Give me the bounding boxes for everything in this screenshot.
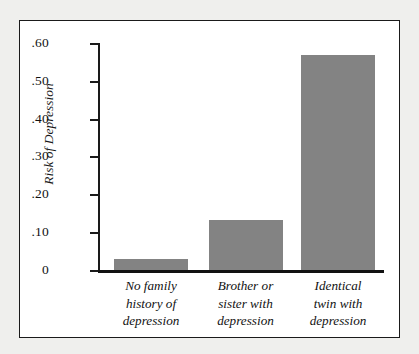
x-axis-category-line: depression <box>99 312 203 330</box>
x-axis-category-line: Identical <box>286 277 390 295</box>
y-axis-tick-label: .10 <box>5 224 49 240</box>
y-axis-tick <box>90 119 99 121</box>
x-axis-category-line: history of <box>99 295 203 313</box>
figure: .60 .50 .40 .30 .20 .10 0 Risk of Depres… <box>0 0 419 354</box>
y-axis-tick <box>90 43 99 45</box>
x-axis-category-label: Identical twin with depression <box>286 277 390 330</box>
x-axis-category-line: depression <box>194 312 298 330</box>
y-axis-title: Risk of Depression <box>41 59 57 209</box>
x-axis-category-line: sister with <box>194 295 298 313</box>
y-axis-tick <box>90 81 99 83</box>
x-axis-category-label: No family history of depression <box>99 277 203 330</box>
x-axis-category-label: Brother or sister with depression <box>194 277 298 330</box>
plot-area: .60 .50 .40 .30 .20 .10 0 Risk of Depres… <box>20 21 401 339</box>
bar <box>301 55 375 270</box>
x-axis-category-line: depression <box>286 312 390 330</box>
y-axis-tick <box>90 194 99 196</box>
x-axis-line <box>98 270 384 273</box>
y-axis-tick <box>90 232 99 234</box>
y-axis-tick-label: 0 <box>5 262 49 278</box>
y-axis-tick-label: .60 <box>5 35 49 51</box>
x-axis-category-line: twin with <box>286 295 390 313</box>
y-axis-tick <box>90 156 99 158</box>
chart-plate: .60 .50 .40 .30 .20 .10 0 Risk of Depres… <box>19 20 400 338</box>
bar <box>114 259 188 270</box>
x-axis-category-line: No family <box>99 277 203 295</box>
x-axis-category-line: Brother or <box>194 277 298 295</box>
bar <box>209 220 283 271</box>
